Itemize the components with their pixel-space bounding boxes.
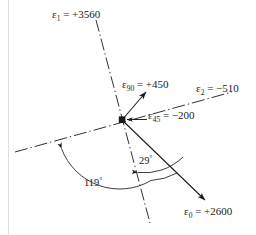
label-epsilon-0: ε0 = +2600 bbox=[184, 206, 232, 217]
label-angle-119-unit: ° bbox=[99, 176, 102, 184]
label-epsilon-2-equals: = bbox=[204, 82, 216, 94]
label-epsilon-45: ε45 = −200 bbox=[148, 110, 195, 121]
label-angle-29-unit: ° bbox=[150, 154, 153, 162]
arc-angle-119-tail bbox=[151, 173, 177, 181]
label-angle-29-value: 29 bbox=[139, 155, 150, 166]
ray-epsilon-90 bbox=[122, 92, 146, 120]
label-epsilon-1-value: +3560 bbox=[72, 8, 100, 20]
label-angle-119: 119° bbox=[84, 178, 102, 189]
label-epsilon-45-equals: = bbox=[160, 109, 172, 121]
diagram-canvas bbox=[0, 0, 256, 235]
label-epsilon-0-equals: = bbox=[192, 205, 204, 217]
label-epsilon-1-equals: = bbox=[60, 8, 72, 20]
label-angle-29: 29° bbox=[139, 156, 152, 167]
label-epsilon-90-equals: = bbox=[134, 78, 146, 90]
label-epsilon-90: ε90 = +450 bbox=[122, 79, 169, 90]
label-epsilon-90-subscript: 90 bbox=[127, 84, 135, 93]
strain-rosette-diagram: ε1 = +3560 ε2 = −510 ε90 = +450 ε45 = −2… bbox=[0, 0, 256, 235]
label-epsilon-0-value: +2600 bbox=[204, 205, 232, 217]
label-epsilon-2-value: −510 bbox=[216, 82, 239, 94]
label-epsilon-90-value: +450 bbox=[146, 78, 169, 90]
ray-epsilon-0 bbox=[122, 120, 205, 200]
label-angle-119-value: 119 bbox=[84, 177, 99, 188]
label-epsilon-45-value: −200 bbox=[172, 109, 195, 121]
label-epsilon-1: ε1 = +3560 bbox=[52, 9, 100, 20]
arc-angle-119 bbox=[62, 149, 152, 190]
label-epsilon-2: ε2 = −510 bbox=[196, 83, 239, 94]
label-epsilon-45-subscript: 45 bbox=[153, 115, 161, 124]
origin-marker bbox=[119, 116, 126, 123]
